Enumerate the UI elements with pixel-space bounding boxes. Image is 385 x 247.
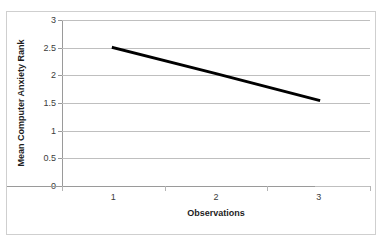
series-line-mean-computer-anxiety-rank — [62, 20, 370, 186]
x-axis-tick — [267, 186, 268, 191]
y-axis-tick-label: 3 — [51, 15, 56, 25]
x-axis-tick-label: 1 — [111, 192, 116, 202]
y-axis-title: Mean Computer Anxiety Rank — [16, 20, 28, 186]
y-axis-tick-label: 1 — [51, 126, 56, 136]
chart-frame: Mean Computer Anxiety Rank 00.511.522.53… — [6, 11, 376, 235]
x-axis-tick — [165, 186, 166, 191]
scan-artifact-fragment: ' — [52, 0, 54, 2]
y-axis-tick-label: 2.5 — [43, 43, 56, 53]
y-axis-tick-label: 0.5 — [43, 153, 56, 163]
y-axis-tick-label: 2 — [51, 70, 56, 80]
x-axis-tick-label: 2 — [213, 192, 218, 202]
x-axis-tick — [370, 186, 371, 191]
x-axis-title: Observations — [62, 208, 370, 218]
x-axis-tick — [62, 186, 63, 191]
scan-artifact-fragment: · — [168, 0, 170, 2]
x-axis-line — [7, 186, 315, 187]
scan-artifact-strip: ' · - — [0, 0, 385, 9]
x-axis-tick-label: 3 — [316, 192, 321, 202]
plot-area: 00.511.522.53 — [62, 20, 370, 186]
scan-artifact-fragment: - — [218, 0, 220, 2]
y-axis-tick-label: 1.5 — [43, 98, 56, 108]
